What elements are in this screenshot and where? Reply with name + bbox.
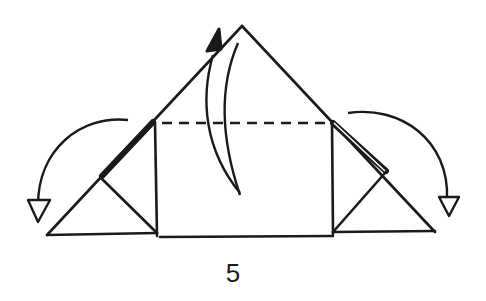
rectangle-right-side xyxy=(332,122,333,234)
right-fold-arrow xyxy=(348,112,459,216)
up-arrow-head-icon xyxy=(207,29,221,51)
right-arrow-head-icon xyxy=(439,197,459,216)
rectangle-left-side xyxy=(155,122,157,236)
step-number: 5 xyxy=(218,258,248,289)
base-left xyxy=(47,233,157,235)
base-center xyxy=(160,236,333,237)
center-upward-fold-arrow xyxy=(206,29,240,195)
left-flap-thick-edge xyxy=(102,122,153,176)
right-flap-crease xyxy=(333,173,385,232)
left-arrow-head-icon xyxy=(28,200,50,222)
left-fold-arrow xyxy=(28,120,128,222)
origami-diagram xyxy=(0,0,486,301)
left-flap-crease xyxy=(101,178,157,233)
base-right xyxy=(333,231,435,232)
